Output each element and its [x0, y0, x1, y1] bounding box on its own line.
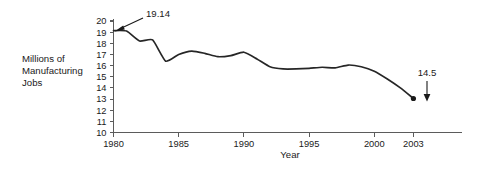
y-axis-caption-line-1: Millions of [22, 53, 65, 64]
endpoint-marker-dot [411, 96, 416, 101]
start-value-annotation: 19.14 [115, 8, 171, 32]
start-value-arrow-shaft [121, 18, 144, 29]
y-axis-caption-line-2: Manufacturing [22, 65, 83, 76]
x-tick-label: 1990 [234, 139, 255, 149]
x-tick-label: 1980 [103, 139, 124, 149]
chart-figure: Millions of Manufacturing Jobs 101112131… [0, 0, 477, 180]
y-tick-label: 17 [96, 50, 106, 60]
y-tick-label: 19 [96, 28, 106, 38]
end-value-annotation: 14.5 [418, 67, 437, 102]
x-tick-label: 2003 [403, 139, 424, 149]
y-tick-label: 11 [97, 117, 107, 127]
y-tick-label: 14 [96, 83, 106, 93]
data-series-line [114, 30, 414, 98]
start-value-label: 19.14 [146, 8, 171, 19]
x-tick-label: 1995 [299, 139, 320, 149]
end-value-label: 14.5 [418, 67, 437, 78]
line-chart: Millions of Manufacturing Jobs 101112131… [0, 0, 477, 180]
x-tick-label: 2000 [364, 139, 385, 149]
y-tick-label: 10 [96, 128, 106, 138]
y-tick-label: 15 [96, 72, 106, 82]
x-axis-ticks: 198019851990199520002003 [103, 133, 424, 149]
y-tick-label: 18 [96, 39, 106, 49]
y-tick-label: 12 [96, 106, 106, 116]
y-tick-label: 20 [96, 16, 106, 26]
end-value-arrow-head [424, 94, 431, 102]
x-tick-label: 1985 [168, 139, 189, 149]
x-axis-title: Year [280, 149, 300, 160]
y-tick-label: 13 [96, 94, 106, 104]
y-axis-ticks: 1011121314151617181920 [96, 16, 113, 137]
y-axis-caption-group: Millions of Manufacturing Jobs [22, 53, 83, 88]
y-tick-label: 16 [96, 61, 106, 71]
y-axis-caption-line-3: Jobs [22, 77, 42, 88]
